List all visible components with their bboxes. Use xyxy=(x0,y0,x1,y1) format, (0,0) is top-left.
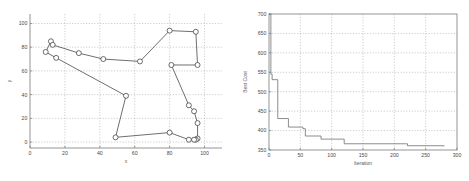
tsp-tour-panel: 020406080100020406080100 x y xyxy=(0,0,235,181)
tsp-tour-svg: 020406080100020406080100 x y xyxy=(0,0,235,181)
svg-text:700: 700 xyxy=(258,11,267,17)
svg-text:300: 300 xyxy=(453,152,462,158)
svg-text:80: 80 xyxy=(22,44,28,50)
cost-tick-labels: 0501001502002503003504004505005506006507… xyxy=(258,11,462,158)
svg-text:0: 0 xyxy=(268,152,271,158)
svg-text:500: 500 xyxy=(258,89,267,95)
svg-text:600: 600 xyxy=(258,50,267,56)
figure-canvas: 020406080100020406080100 x y 05010015020… xyxy=(0,0,469,181)
svg-text:40: 40 xyxy=(22,92,28,98)
cost-gridlines xyxy=(269,14,457,150)
svg-text:0: 0 xyxy=(29,150,32,156)
svg-text:250: 250 xyxy=(421,152,430,158)
cost-y-axis-label: Best Cost xyxy=(242,71,248,93)
cost-x-axis-label: Iteration xyxy=(354,160,372,166)
svg-text:20: 20 xyxy=(62,150,68,156)
svg-text:100: 100 xyxy=(327,152,336,158)
svg-text:200: 200 xyxy=(390,152,399,158)
svg-text:100: 100 xyxy=(200,150,209,156)
cost-step-curve xyxy=(269,14,444,146)
best-cost-panel: 0501001502002503003504004505005506006507… xyxy=(235,0,469,181)
svg-text:80: 80 xyxy=(167,150,173,156)
svg-text:50: 50 xyxy=(297,152,303,158)
svg-text:60: 60 xyxy=(132,150,138,156)
svg-text:650: 650 xyxy=(258,30,267,36)
svg-text:550: 550 xyxy=(258,69,267,75)
tour-y-axis-label: y xyxy=(6,79,12,82)
tour-axes-frame xyxy=(30,14,222,148)
tour-path xyxy=(46,31,198,140)
svg-text:450: 450 xyxy=(258,108,267,114)
tour-gridlines xyxy=(30,14,222,148)
svg-text:150: 150 xyxy=(359,152,368,158)
tour-x-axis-label: x xyxy=(125,158,128,164)
svg-text:350: 350 xyxy=(258,147,267,153)
svg-text:100: 100 xyxy=(19,20,28,26)
svg-text:400: 400 xyxy=(258,127,267,133)
tour-city-nodes xyxy=(43,28,200,142)
svg-text:40: 40 xyxy=(97,150,103,156)
svg-text:0: 0 xyxy=(25,139,28,145)
svg-text:20: 20 xyxy=(22,115,28,121)
svg-text:60: 60 xyxy=(22,68,28,74)
best-cost-svg: 0501001502002503003504004505005506006507… xyxy=(235,0,469,181)
